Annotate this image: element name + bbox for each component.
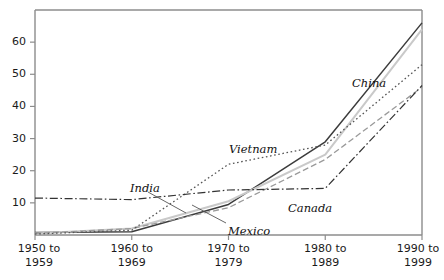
leader-line-india (148, 192, 186, 213)
series-label-china: China (352, 78, 386, 90)
y-axis-tick-label: 60 (2, 36, 26, 47)
y-axis-tick-label: 50 (2, 68, 26, 79)
series-label-mexico: Mexico (228, 226, 270, 238)
y-axis-tick-label: 10 (2, 197, 26, 208)
x-axis-tick-label: 1990 to1999 (383, 243, 444, 268)
series-label-vietnam: Vietnam (229, 144, 277, 156)
series-lines (35, 23, 422, 234)
x-axis-tick-label: 1970 to1979 (194, 243, 264, 268)
y-axis-ticks (30, 42, 35, 203)
x-axis-tick-label: 1980 to1989 (290, 243, 360, 268)
x-axis-tick-label: 1950 to1959 (4, 243, 74, 268)
y-axis-tick-label: 30 (2, 133, 26, 144)
x-axis-tick-label: 1960 to1969 (97, 243, 167, 268)
y-axis-tick-label: 40 (2, 100, 26, 111)
series-line-mexico (35, 87, 422, 233)
series-label-canada: Canada (288, 203, 332, 215)
y-axis-tick-label: 20 (2, 165, 26, 176)
series-label-india: India (130, 183, 160, 195)
